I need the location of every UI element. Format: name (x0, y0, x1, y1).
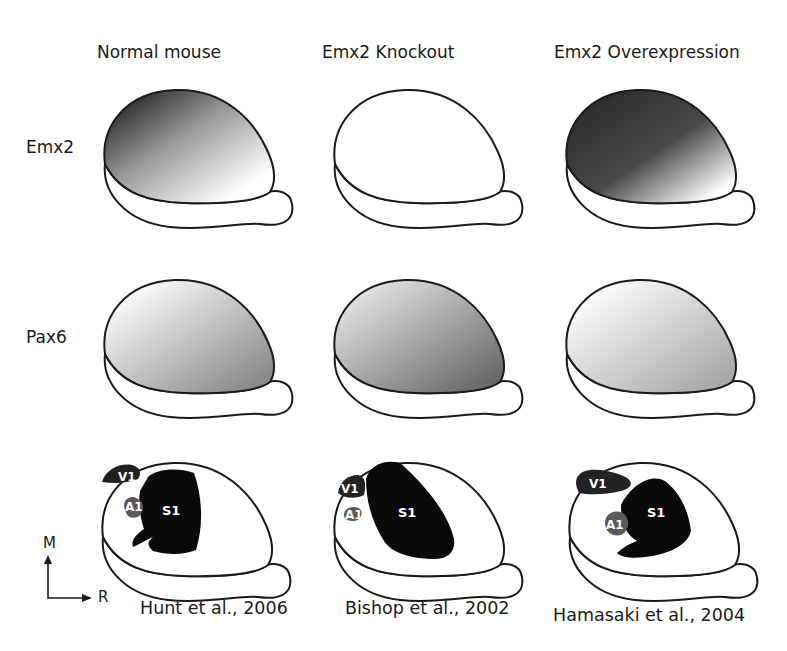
svg-text:A1: A1 (345, 508, 363, 522)
svg-text:A1: A1 (606, 518, 624, 532)
citation-overexpression: Hamasaki et al., 2004 (553, 605, 745, 625)
brain-pax6-normal (100, 272, 300, 427)
axis-arrows-icon (30, 552, 105, 612)
row-title-emx2: Emx2 (26, 137, 74, 157)
citation-normal: Hunt et al., 2006 (140, 598, 288, 618)
svg-text:S1: S1 (162, 503, 180, 518)
area-map-normal: V1 A1 S1 (98, 455, 298, 610)
area-map-overexpression: V1 A1 S1 (565, 455, 765, 610)
column-title-normal: Normal mouse (97, 42, 221, 62)
svg-text:A1: A1 (125, 500, 143, 514)
column-title-knockout: Emx2 Knockout (322, 42, 454, 62)
brain-emx2-knockout (330, 82, 530, 237)
axis-label-medial: M (43, 534, 56, 552)
svg-text:S1: S1 (647, 505, 665, 520)
svg-text:V1: V1 (341, 482, 359, 496)
column-title-overexpression: Emx2 Overexpression (554, 42, 740, 62)
axis-label-rostral: R (98, 588, 108, 606)
svg-text:V1: V1 (589, 477, 607, 491)
svg-text:V1: V1 (118, 470, 136, 484)
brain-emx2-overexpression (562, 82, 762, 237)
brain-emx2-normal (100, 82, 300, 237)
brain-pax6-overexpression (562, 272, 762, 427)
area-map-knockout: V1 A1 S1 (330, 455, 530, 610)
brain-pax6-knockout (330, 272, 530, 427)
svg-text:S1: S1 (398, 505, 416, 520)
citation-knockout: Bishop et al., 2002 (345, 598, 509, 618)
row-title-pax6: Pax6 (26, 327, 67, 347)
